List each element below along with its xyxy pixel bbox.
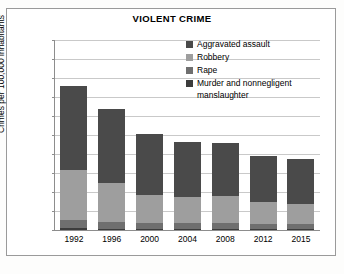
legend-swatch-icon: [186, 67, 193, 74]
legend-swatch-icon: [186, 41, 193, 48]
legend-item[interactable]: Robbery: [186, 52, 292, 64]
chart-legend: Aggravated assaultRobberyRapeMurder and …: [186, 39, 292, 103]
legend-label: Aggravated assault: [197, 39, 270, 51]
legend-label: Robbery: [197, 52, 229, 64]
bar-segment[interactable]: [212, 143, 239, 196]
bar-group[interactable]: 2000: [136, 40, 163, 230]
y-axis-label: Crimes per 100,000 inhabitants: [0, 15, 6, 133]
bar-segment[interactable]: [98, 109, 125, 183]
chart-title: VIOLENT CRIME: [0, 13, 344, 24]
bar-group[interactable]: 2015: [287, 40, 314, 230]
bar-segment[interactable]: [250, 229, 277, 230]
bar-segment[interactable]: [174, 142, 201, 197]
y-tick-mark: [52, 230, 55, 231]
bar-segment[interactable]: [136, 134, 163, 196]
bar-segment[interactable]: [136, 229, 163, 230]
bar-group[interactable]: 1996: [98, 40, 125, 230]
bar-segment[interactable]: [60, 220, 87, 228]
bar-segment[interactable]: [287, 229, 314, 230]
bar-segment[interactable]: [250, 202, 277, 223]
bar-segment[interactable]: [174, 197, 201, 223]
bar-segment[interactable]: [212, 196, 239, 224]
bar-segment[interactable]: [98, 229, 125, 230]
bar-segment[interactable]: [250, 156, 277, 202]
bar-group[interactable]: 1992: [60, 40, 87, 230]
bar-segment[interactable]: [60, 228, 87, 230]
bar-segment[interactable]: [60, 170, 87, 220]
legend-label: Rape: [197, 65, 217, 77]
x-tick-label: 2015: [278, 234, 324, 244]
legend-swatch-icon: [186, 80, 193, 87]
legend-item[interactable]: Aggravated assault: [186, 39, 292, 51]
bar-segment[interactable]: [98, 183, 125, 221]
bar-segment[interactable]: [287, 159, 314, 204]
legend-item[interactable]: Murder and nonnegligent manslaughter: [186, 78, 292, 101]
legend-item[interactable]: Rape: [186, 65, 292, 77]
legend-swatch-icon: [186, 54, 193, 61]
bar-segment[interactable]: [212, 229, 239, 230]
bar-segment[interactable]: [98, 222, 125, 229]
chart-figure: VIOLENT CRIME Crimes per 100,000 inhabit…: [0, 0, 344, 274]
legend-label: Murder and nonnegligent manslaughter: [197, 78, 292, 101]
bar-segment[interactable]: [136, 195, 163, 223]
bar-segment[interactable]: [174, 229, 201, 230]
bar-segment[interactable]: [287, 204, 314, 223]
bar-segment[interactable]: [60, 86, 87, 170]
